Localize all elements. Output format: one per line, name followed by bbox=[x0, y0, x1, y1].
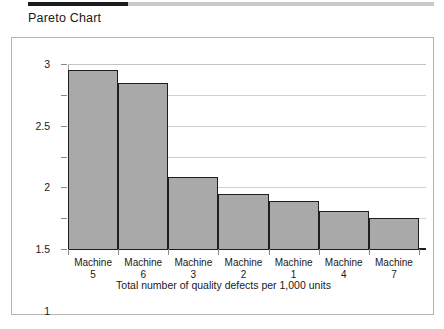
y-tick-mark: 0.5 bbox=[61, 218, 67, 219]
plot-area: 00.511.522.53 Machine5Machine6Machine3Ma… bbox=[68, 64, 419, 249]
x-axis-label-line1: Machine bbox=[275, 257, 313, 268]
x-axis-label-line1: Machine bbox=[74, 257, 112, 268]
x-tick-mark bbox=[419, 249, 420, 255]
x-axis-label-line1: Machine bbox=[174, 257, 212, 268]
y-tick-mark: 2 bbox=[61, 126, 67, 127]
x-tick-mark bbox=[168, 249, 169, 255]
bar bbox=[369, 218, 419, 249]
x-tick-mark bbox=[218, 249, 219, 255]
y-tick-label: 3 bbox=[44, 58, 50, 70]
x-axis-label: Machine6 bbox=[118, 257, 168, 281]
y-tick-label: 2 bbox=[44, 181, 50, 193]
bar bbox=[319, 211, 369, 249]
header-rule-accent bbox=[28, 2, 128, 6]
y-tick-mark: 3 bbox=[61, 64, 67, 65]
x-axis-label: Machine5 bbox=[68, 257, 118, 281]
x-tick-mark bbox=[319, 249, 320, 255]
x-axis-label: Machine4 bbox=[319, 257, 369, 281]
x-axis-caption: Total number of quality defects per 1,00… bbox=[12, 279, 435, 291]
bar bbox=[68, 70, 118, 249]
y-tick-label: 1 bbox=[44, 305, 50, 317]
x-tick-mark bbox=[369, 249, 370, 255]
y-tick-label: 1.5 bbox=[35, 243, 50, 255]
x-tick-mark bbox=[68, 249, 69, 255]
y-tick-mark: 1 bbox=[61, 187, 67, 188]
y-tick-mark: 1.5 bbox=[61, 157, 67, 158]
bar bbox=[118, 83, 168, 250]
gridline bbox=[68, 64, 426, 65]
x-axis-label: Machine2 bbox=[218, 257, 268, 281]
x-tick-mark bbox=[269, 249, 270, 255]
x-axis-label-line1: Machine bbox=[124, 257, 162, 268]
y-tick-label: 2.5 bbox=[35, 120, 50, 132]
x-axis-label: Machine1 bbox=[269, 257, 319, 281]
y-tick-mark: 0 bbox=[61, 249, 67, 250]
x-tick-mark bbox=[118, 249, 119, 255]
x-axis-label-line1: Machine bbox=[225, 257, 263, 268]
x-axis-label: Machine3 bbox=[168, 257, 218, 281]
y-tick-mark: 2.5 bbox=[61, 95, 67, 96]
bar bbox=[269, 201, 319, 249]
page-title: Pareto Chart bbox=[28, 11, 101, 25]
bar bbox=[168, 177, 218, 249]
x-axis-label-line1: Machine bbox=[375, 257, 413, 268]
x-axis-label-line1: Machine bbox=[325, 257, 363, 268]
chart-panel: 00.511.522.53 Machine5Machine6Machine3Ma… bbox=[11, 37, 434, 315]
x-axis-label: Machine7 bbox=[369, 257, 419, 281]
bar bbox=[218, 194, 268, 250]
plot-wrapper: 00.511.522.53 Machine5Machine6Machine3Ma… bbox=[12, 38, 435, 316]
